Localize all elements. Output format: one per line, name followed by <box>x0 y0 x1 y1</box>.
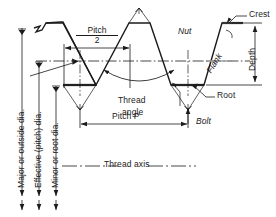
minor-dia-label: Minor or root dia. <box>51 122 60 188</box>
pitch-half-denominator: 2 <box>76 35 118 45</box>
thread-terminology-diagram: Pitch 2 Thread angle Pitch P Nut Bolt Cr… <box>0 0 276 217</box>
thread-axis-label: Thread axis <box>104 160 150 169</box>
effective-dia-label: Effective (pitch) dia. <box>34 111 43 188</box>
depth-label: Depth <box>248 48 257 71</box>
bolt-label: Bolt <box>196 117 211 126</box>
pitch-half-dimension <box>64 44 130 88</box>
major-dia-label: Major or outside dia. <box>17 109 26 188</box>
nut-label: Nut <box>178 27 192 36</box>
centre-ticks <box>80 50 188 96</box>
thread-angle-label-line1: Thread <box>118 96 146 105</box>
pitch-half-numerator: Pitch <box>76 26 118 35</box>
pitch-p-label: Pitch P <box>112 112 140 121</box>
pitch-half-label: Pitch 2 <box>76 26 118 44</box>
crest-v-extension <box>129 8 150 23</box>
crest-leader <box>226 16 247 38</box>
crest-label: Crest <box>249 10 270 19</box>
root-label: Root <box>217 91 235 100</box>
